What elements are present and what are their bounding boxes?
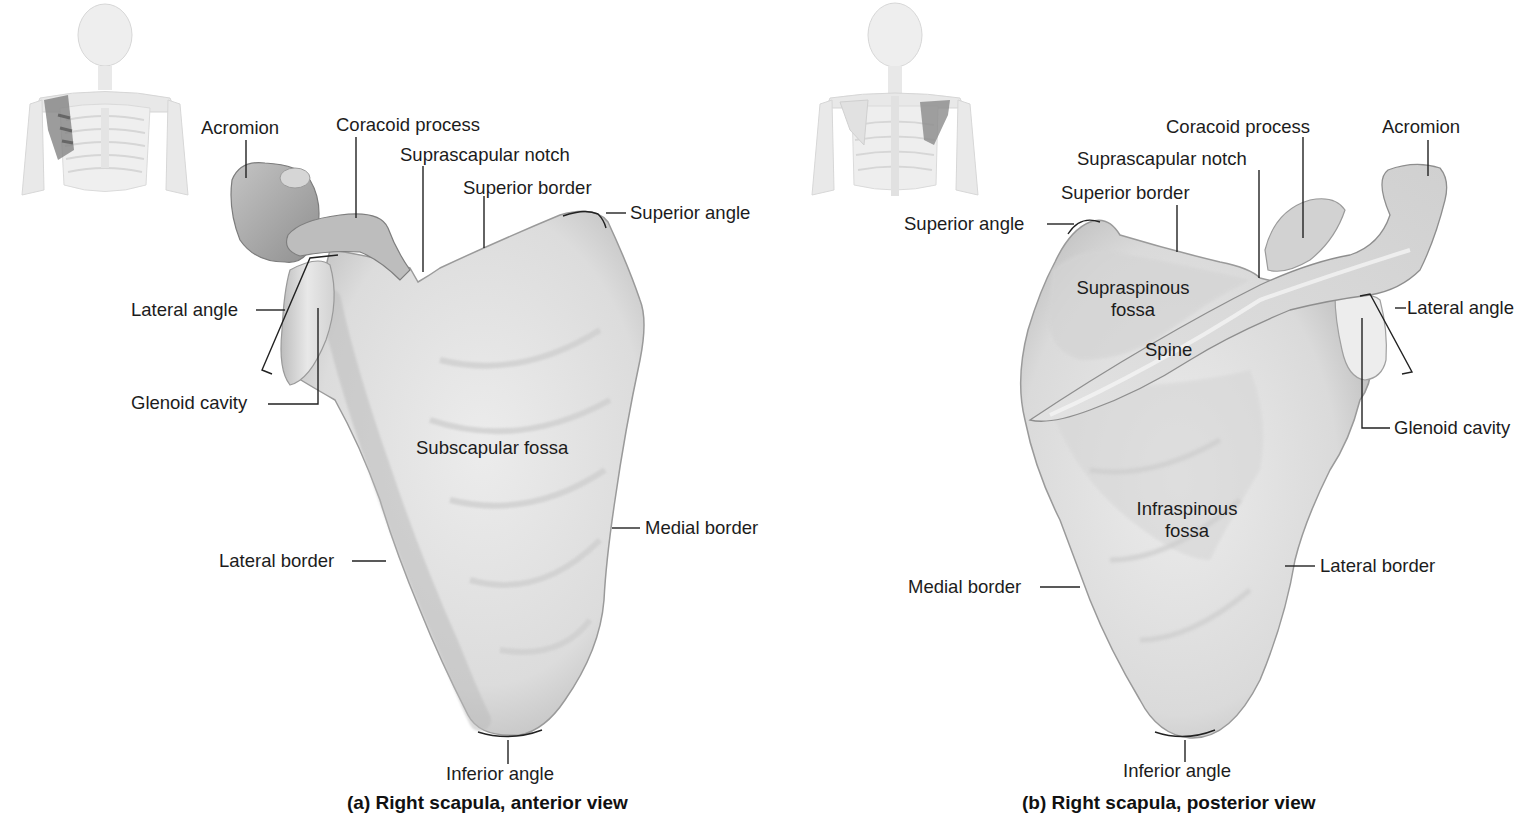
figure-anterior-view: Acromion Coracoid process Suprascapular … (0, 0, 790, 835)
label-spine: Spine (1145, 340, 1192, 360)
label-glenoid-cavity: Glenoid cavity (131, 393, 247, 413)
label-supraspinous-fossa: Supraspinous fossa (1058, 278, 1208, 320)
label-lateral-border: Lateral border (1320, 556, 1435, 576)
posterior-skeleton-thumbnail (812, 3, 978, 196)
label-inferior-angle: Inferior angle (446, 764, 554, 784)
label-superior-border: Superior border (1061, 183, 1190, 203)
label-suprascapular-notch: Suprascapular notch (1077, 149, 1247, 169)
label-coracoid-process: Coracoid process (336, 115, 480, 135)
label-medial-border: Medial border (645, 518, 758, 538)
label-coracoid-process: Coracoid process (1166, 117, 1310, 137)
anterior-skeleton-thumbnail (22, 4, 188, 195)
label-infraspinous-fossa: Infraspinous fossa (1112, 499, 1262, 541)
label-lateral-border: Lateral border (219, 551, 334, 571)
label-inferior-angle: Inferior angle (1123, 761, 1231, 781)
label-superior-angle: Superior angle (630, 203, 750, 223)
label-subscapular-fossa: Subscapular fossa (416, 438, 568, 458)
label-acromion: Acromion (1382, 117, 1460, 137)
caption-anterior-view: (a) Right scapula, anterior view (347, 792, 628, 814)
label-medial-border: Medial border (908, 577, 1021, 597)
label-lateral-angle: Lateral angle (1407, 298, 1514, 318)
label-lateral-angle: Lateral angle (131, 300, 238, 320)
figure-posterior-view: Coracoid process Acromion Suprascapular … (790, 0, 1530, 835)
label-superior-angle: Superior angle (904, 214, 1024, 234)
caption-posterior-view: (b) Right scapula, posterior view (1022, 792, 1316, 814)
label-glenoid-cavity: Glenoid cavity (1394, 418, 1510, 438)
label-suprascapular-notch: Suprascapular notch (400, 145, 570, 165)
label-superior-border: Superior border (463, 178, 592, 198)
label-acromion: Acromion (201, 118, 279, 138)
